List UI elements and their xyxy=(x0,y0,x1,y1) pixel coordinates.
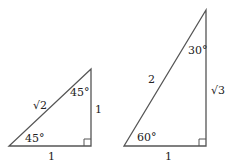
vertical-leg-label: 1 xyxy=(95,103,102,116)
angle-top-label: 45° xyxy=(70,86,90,99)
triangle-45-45-90: √2 1 1 45° 45° xyxy=(9,69,102,163)
right-angle-marker xyxy=(199,139,206,146)
base-label: 1 xyxy=(165,150,172,163)
triangle-30-60-90: 2 √3 1 60° 30° xyxy=(124,10,225,163)
angle-top-label: 30° xyxy=(188,44,208,57)
special-right-triangles-diagram: √2 1 1 45° 45° 2 √3 1 60° 30° xyxy=(0,0,233,164)
vertical-leg-label: √3 xyxy=(211,84,225,97)
right-angle-marker xyxy=(84,139,91,146)
base-label: 1 xyxy=(48,150,55,163)
diagram-canvas: √2 1 1 45° 45° 2 √3 1 60° 30° xyxy=(0,0,233,164)
triangle-30-60-outline xyxy=(124,10,206,146)
hypotenuse-label: 2 xyxy=(148,73,155,86)
hypotenuse-label: √2 xyxy=(33,99,47,112)
angle-bottom-label: 60° xyxy=(137,131,157,144)
angle-bottom-label: 45° xyxy=(25,132,45,145)
triangle-45-outline xyxy=(9,69,91,146)
